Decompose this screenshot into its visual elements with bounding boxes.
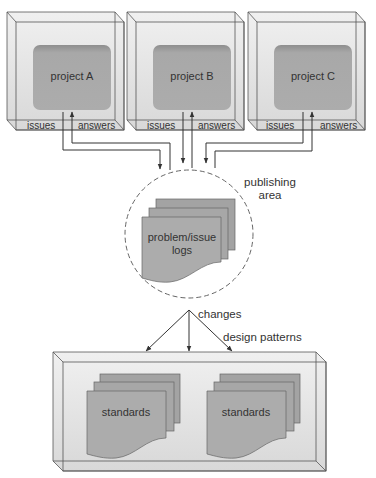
project-a-label: project A: [51, 70, 94, 82]
standards-repository: standards standards: [53, 352, 326, 471]
standards-right-label: standards: [222, 406, 271, 418]
problem-issue-logs-label-line2: logs: [172, 244, 193, 256]
publishing-area-label-line2: area: [258, 189, 282, 201]
project-box-c: project C issues answers: [248, 12, 365, 131]
standards-left-label: standards: [102, 406, 151, 418]
project-box-a: project A issues answers: [7, 12, 124, 131]
problem-issue-logs-stack: problem/issue logs: [142, 199, 235, 282]
publishing-area: publishing area problem/issue logs: [125, 170, 296, 298]
publishing-area-label-line1: publishing: [244, 176, 296, 188]
project-c-issues-label: issues: [266, 120, 294, 131]
arrow-to-standards-left: [146, 310, 189, 351]
project-c-label: project C: [291, 70, 335, 82]
project-b-issues-label: issues: [147, 120, 175, 131]
diagram-canvas: project A issues answers project B issue…: [0, 0, 376, 478]
project-b-label: project B: [170, 70, 213, 82]
problem-issue-logs-label-line1: problem/issue: [148, 231, 216, 243]
design-patterns-label: design patterns: [223, 331, 302, 343]
project-a-answers-label: answers: [78, 120, 115, 131]
project-b-answers-label: answers: [198, 120, 235, 131]
project-box-b: project B issues answers: [127, 12, 244, 131]
changes-label: changes: [198, 308, 242, 320]
project-a-issues-label: issues: [27, 120, 55, 131]
project-c-answers-label: answers: [320, 120, 357, 131]
